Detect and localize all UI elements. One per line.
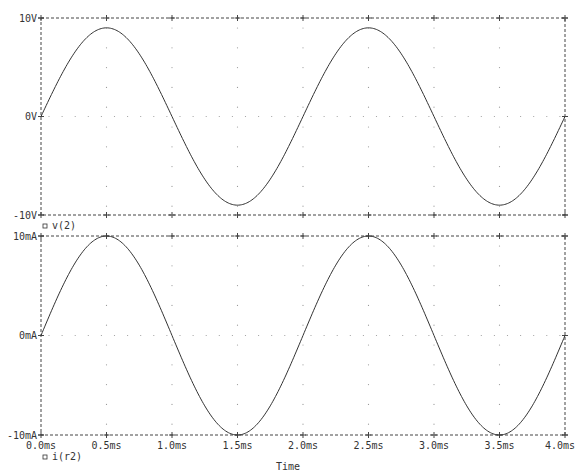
x-axis-labels: 0.0ms 0.5ms 1.0ms 1.5ms 2.0ms 2.5ms 3.0m… [26, 440, 575, 451]
x-label: 2.0ms [288, 440, 318, 451]
x-label: 1.5ms [222, 440, 252, 451]
grid-dots [48, 27, 560, 424]
y-label-bottom-max: 10mA [13, 231, 37, 242]
tick-marks [38, 15, 568, 438]
x-axis-title: Time [276, 461, 300, 472]
x-label: 2.5ms [353, 440, 383, 451]
x-label: 4.0ms [545, 440, 575, 451]
plot-frames [41, 18, 565, 435]
y-label-bottom-zero: 0mA [19, 330, 37, 341]
waveform-plot: 10V 0V -10V v(2) 10mA 0mA -10mA 0.0ms 0.… [0, 0, 579, 475]
x-label: 3.5ms [484, 440, 514, 451]
y-label-top-max: 10V [19, 13, 37, 24]
x-label: 1.0ms [157, 440, 187, 451]
x-label: 0.5ms [91, 440, 121, 451]
legend-marker-v2 [43, 224, 47, 228]
y-label-top-min: -10V [13, 210, 37, 221]
x-label: 0.0ms [26, 440, 56, 451]
legend-label-ir2: i(r2) [52, 451, 82, 462]
voltage-trace-v2 [41, 28, 565, 205]
y-label-top-zero: 0V [25, 111, 37, 122]
x-label: 3.0ms [419, 440, 449, 451]
legend-label-v2: v(2) [52, 220, 76, 231]
legend-marker-ir2 [43, 455, 47, 459]
